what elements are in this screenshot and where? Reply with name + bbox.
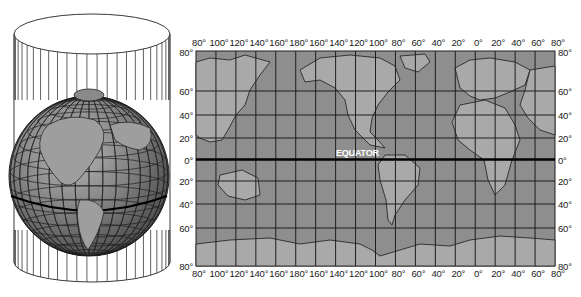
longitude-label-top: 160° <box>309 37 328 48</box>
longitude-label-bottom: 100° <box>210 268 229 279</box>
longitude-label-top: 120° <box>229 37 248 48</box>
longitude-label-top: 100° <box>210 37 229 48</box>
latitude-label-left: 20° <box>179 133 193 144</box>
longitude-label-top: 80° <box>392 37 406 48</box>
latitude-label-right: 60° <box>558 86 572 97</box>
globe-cylinder-drawing <box>0 0 180 297</box>
longitude-label-bottom: 100° <box>369 268 388 279</box>
latitude-label-right: 40° <box>558 199 572 210</box>
equator-label: EQUATOR <box>336 148 379 158</box>
longitude-label-bottom: 20° <box>491 268 505 279</box>
latitude-label-right: 20° <box>558 176 572 187</box>
longitude-label-top: 60° <box>531 37 545 48</box>
latitude-label-right: 20° <box>558 133 572 144</box>
latitude-label-right: 0° <box>558 154 567 165</box>
longitude-label-top: 120° <box>349 37 368 48</box>
longitude-label-top: 40° <box>431 37 445 48</box>
longitude-label-top: 40° <box>511 37 525 48</box>
mercator-projection-figure: EQUATOR 80°100°120°140°160°180°160°140°1… <box>0 0 581 297</box>
longitude-label-bottom: 140° <box>249 268 268 279</box>
longitude-label-top: 180° <box>289 37 308 48</box>
longitude-label-bottom: 160° <box>309 268 328 279</box>
longitude-label-bottom: 60° <box>411 268 425 279</box>
latitude-label-right: 80° <box>558 261 572 272</box>
longitude-label-top: 140° <box>329 37 348 48</box>
latitude-label-left: 0° <box>184 154 193 165</box>
latitude-label-right: 60° <box>558 223 572 234</box>
mercator-map: EQUATOR 80°100°120°140°160°180°160°140°1… <box>170 30 581 297</box>
longitude-label-bottom: 40° <box>511 268 525 279</box>
longitude-label-top: 20° <box>491 37 505 48</box>
longitude-label-bottom: 120° <box>229 268 248 279</box>
longitude-label-top: 140° <box>249 37 268 48</box>
longitude-label-bottom: 180° <box>289 268 308 279</box>
longitude-label-bottom: 0° <box>474 268 483 279</box>
latitude-label-left: 40° <box>179 199 193 210</box>
latitude-label-right: 80° <box>558 47 572 58</box>
latitude-label-left: 80° <box>179 47 193 58</box>
globe-in-cylinder-illustration <box>0 0 180 297</box>
longitude-label-top: 80° <box>192 37 206 48</box>
longitude-label-bottom: 120° <box>349 268 368 279</box>
longitude-label-bottom: 140° <box>329 268 348 279</box>
longitude-label-top: 20° <box>451 37 465 48</box>
longitude-label-top: 0° <box>474 37 483 48</box>
latitude-label-left: 40° <box>179 110 193 121</box>
longitude-label-bottom: 80° <box>392 268 406 279</box>
longitude-label-bottom: 20° <box>451 268 465 279</box>
longitude-label-bottom: 160° <box>269 268 288 279</box>
latitude-label-right: 40° <box>558 110 572 121</box>
longitude-label-bottom: 80° <box>192 268 206 279</box>
longitude-label-top: 60° <box>411 37 425 48</box>
latitude-label-left: 20° <box>179 176 193 187</box>
longitude-label-bottom: 40° <box>431 268 445 279</box>
longitude-label-top: 160° <box>269 37 288 48</box>
latitude-label-left: 80° <box>179 261 193 272</box>
latitude-label-left: 60° <box>179 223 193 234</box>
longitude-label-top: 100° <box>369 37 388 48</box>
latitude-label-left: 60° <box>179 86 193 97</box>
longitude-label-bottom: 60° <box>531 268 545 279</box>
map-drawing <box>170 30 581 297</box>
